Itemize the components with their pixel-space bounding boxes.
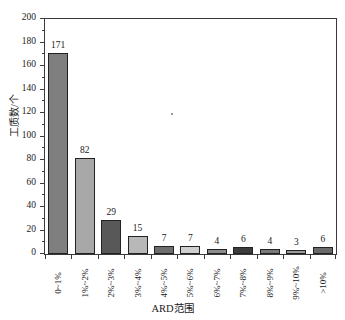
bar-slot: 4 (204, 19, 230, 254)
bars-layer: 1718229157746436 (45, 19, 336, 254)
y-axis-minor-tick (42, 100, 45, 101)
y-axis-tick-label: 180 (22, 35, 36, 48)
y-axis-tick-mark (40, 253, 44, 254)
y-axis-minor-tick (42, 218, 45, 219)
x-tick-label-slot: 6%~7% (204, 258, 230, 302)
bar-slot: 15 (124, 19, 150, 254)
bar[interactable] (207, 249, 227, 254)
y-axis-minor-tick (42, 241, 45, 242)
bar[interactable] (48, 53, 68, 254)
bar-slot: 7 (151, 19, 177, 254)
x-axis-tick-label: 3%~4% (133, 269, 143, 298)
image-artifact-speck (171, 113, 173, 115)
x-tick-labels: 0~1%1%~2%2%~3%3%~4%4%~5%5%~6%6%~7%7%~8%8… (45, 258, 336, 302)
x-axis-tick-label: 7%~8% (238, 269, 248, 298)
x-axis-tick-label: 2%~3% (106, 269, 116, 298)
x-tick-label-slot: 0~1% (45, 258, 71, 302)
y-axis-tick-label: 160 (22, 58, 36, 71)
x-tick-label-slot: 8%~9% (257, 258, 283, 302)
bar[interactable] (101, 220, 121, 254)
y-axis-tick-label: 60 (27, 176, 37, 189)
x-tick-label-slot: 3%~4% (124, 258, 150, 302)
bar-value-label: 7 (188, 233, 193, 244)
bar-value-label: 4 (215, 236, 220, 247)
y-axis-minor-tick (42, 30, 45, 31)
bar[interactable] (313, 247, 333, 254)
x-axis-tick-label: >10% (318, 272, 328, 294)
y-axis-tick-mark (40, 206, 44, 207)
y-axis-minor-tick (42, 171, 45, 172)
bar-value-label: 29 (106, 207, 116, 218)
x-tick-label-slot: 2%~3% (98, 258, 124, 302)
y-axis-minor-tick (42, 194, 45, 195)
y-axis-tick-mark (40, 112, 44, 113)
y-axis-tick-mark (40, 89, 44, 90)
x-axis-tick-label: 1%~2% (80, 269, 90, 298)
y-axis-tick-mark (40, 230, 44, 231)
y-axis-tick-label: 20 (27, 223, 37, 236)
x-tick-label-slot: 9%~10% (283, 258, 309, 302)
x-axis-tick-label: 6%~7% (212, 269, 222, 298)
x-axis-tick-label: 0~1% (53, 272, 63, 293)
bar-value-label: 171 (51, 40, 65, 51)
bar[interactable] (128, 236, 148, 254)
y-axis-tick-mark (40, 42, 44, 43)
x-axis-title: ARD范围 (0, 300, 345, 315)
bar[interactable] (233, 247, 253, 254)
y-axis-title: 工质数/个 (6, 81, 21, 151)
y-axis-tick-label: 200 (22, 11, 36, 24)
bar-slot: 6 (230, 19, 256, 254)
bar-slot: 171 (45, 19, 71, 254)
x-tick-label-slot: >10% (310, 258, 336, 302)
bar-chart: 020406080100120140160180200 工质数/个 171822… (0, 0, 345, 320)
bar-value-label: 4 (267, 236, 272, 247)
y-axis-tick-mark (40, 183, 44, 184)
y-axis-minor-tick (42, 147, 45, 148)
bar-slot: 7 (177, 19, 203, 254)
x-tick-label-slot: 1%~2% (71, 258, 97, 302)
x-axis-tick-label: 8%~9% (265, 269, 275, 298)
bar-value-label: 6 (320, 234, 325, 245)
bar[interactable] (154, 246, 174, 254)
bar-value-label: 3 (294, 237, 299, 248)
y-axis-tick-label: 120 (22, 105, 36, 118)
y-axis-tick-label: 0 (31, 246, 36, 259)
y-axis-tick-mark (40, 136, 44, 137)
bar-slot: 4 (257, 19, 283, 254)
bar-slot: 82 (71, 19, 97, 254)
x-axis-tick-label: 9%~10% (291, 266, 301, 299)
bar[interactable] (180, 246, 200, 254)
x-axis-tick-label: 5%~6% (185, 269, 195, 298)
bar-value-label: 6 (241, 234, 246, 245)
bar[interactable] (75, 158, 95, 254)
y-axis-tick-mark (40, 18, 44, 19)
bar-value-label: 82 (80, 145, 90, 156)
y-axis-tick-mark (40, 159, 44, 160)
y-axis-tick-label: 140 (22, 82, 36, 95)
y-axis-tick-mark (40, 65, 44, 66)
x-tick-label-slot: 7%~8% (230, 258, 256, 302)
x-tick-label-slot: 4%~5% (151, 258, 177, 302)
bar[interactable] (286, 250, 306, 254)
bar-value-label: 7 (162, 233, 167, 244)
bar-slot: 29 (98, 19, 124, 254)
y-axis-tick-label: 100 (22, 129, 36, 142)
bar-slot: 6 (310, 19, 336, 254)
y-axis-tick-label: 40 (27, 199, 37, 212)
bar-value-label: 15 (133, 223, 143, 234)
y-axis-minor-tick (42, 53, 45, 54)
x-tick-label-slot: 5%~6% (177, 258, 203, 302)
y-axis-minor-tick (42, 124, 45, 125)
y-axis-tick-label: 80 (27, 152, 37, 165)
bar[interactable] (260, 249, 280, 254)
y-axis-minor-tick (42, 77, 45, 78)
x-axis-tick-label: 4%~5% (159, 269, 169, 298)
bar-slot: 3 (283, 19, 309, 254)
